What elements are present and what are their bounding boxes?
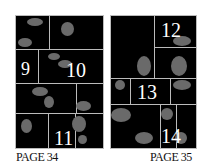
panel bbox=[50, 16, 103, 49]
page-label: PAGE 34 bbox=[16, 150, 58, 165]
panel-number: 10 bbox=[66, 60, 86, 80]
panel-number: 14 bbox=[161, 126, 181, 146]
page-34-thumbnail[interactable]: 9 10 11 bbox=[16, 16, 103, 148]
page-35-thumbnail[interactable]: 12 13 14 bbox=[111, 16, 196, 148]
page-label: PAGE 35 bbox=[150, 150, 192, 165]
panel-number: 13 bbox=[137, 82, 157, 102]
panel-number: 11 bbox=[54, 128, 73, 148]
panel-number: 9 bbox=[21, 60, 30, 78]
panel bbox=[16, 114, 48, 148]
panel-number: 12 bbox=[161, 20, 181, 40]
